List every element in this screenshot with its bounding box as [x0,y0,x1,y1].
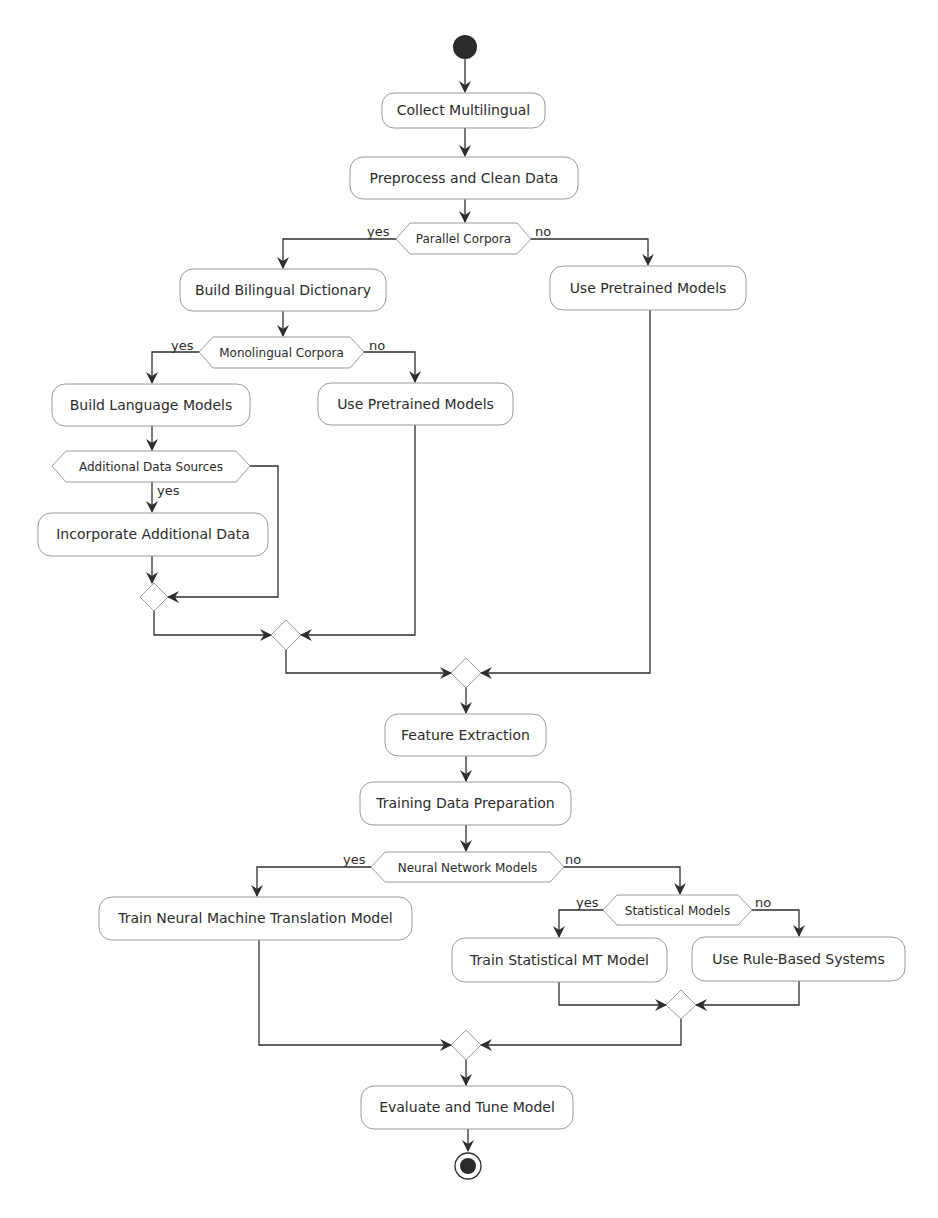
decision-statistical: Statistical Models [603,895,752,925]
start-node [453,35,477,59]
svg-text:Evaluate and Tune Model: Evaluate and Tune Model [379,1099,555,1115]
svg-text:Parallel Corpora: Parallel Corpora [416,232,511,246]
svg-text:Train Neural Machine Translati: Train Neural Machine Translation Model [117,910,393,926]
svg-text:Preprocess and Clean Data: Preprocess and Clean Data [370,170,559,186]
edge-pretrained-mid-merge2 [301,425,415,635]
edge-statistical-yes [559,910,603,937]
action-pretrained-mid: Use Pretrained Models [318,383,513,425]
action-evaluate: Evaluate and Tune Model [361,1086,573,1129]
activity-diagram: yes no yes no yes yes no yes no Collect … [0,0,938,1218]
decision-monolingual: Monolingual Corpora [199,337,364,368]
label-statistical-no: no [755,895,771,910]
edge-smt-merge4 [559,982,666,1005]
edge-merge2-merge3 [286,650,451,673]
merge-diamond-5 [451,1030,481,1060]
edge-nmt-merge5 [259,940,451,1045]
action-bilingual: Build Bilingual Dictionary [180,269,386,311]
action-train-nmt: Train Neural Machine Translation Model [99,897,412,940]
edge-parallel-no [531,239,648,265]
svg-text:Feature Extraction: Feature Extraction [401,727,530,743]
svg-text:Incorporate Additional Data: Incorporate Additional Data [56,526,250,542]
svg-text:Training Data Preparation: Training Data Preparation [375,795,554,811]
edge-monolingual-no [364,352,415,382]
label-neural-yes: yes [343,852,366,867]
edge-neural-no [564,867,680,894]
action-rule-based: Use Rule-Based Systems [692,937,905,981]
action-train-smt: Train Statistical MT Model [452,938,667,982]
label-parallel-no: no [535,224,551,239]
label-parallel-yes: yes [367,224,390,239]
label-monolingual-yes: yes [171,338,194,353]
action-feature: Feature Extraction [385,714,546,756]
decision-neural: Neural Network Models [371,852,564,882]
svg-text:Additional Data Sources: Additional Data Sources [79,460,223,474]
svg-text:Collect Multilingual: Collect Multilingual [397,102,530,118]
svg-text:Build Bilingual Dictionary: Build Bilingual Dictionary [195,282,371,298]
svg-text:Train Statistical MT Model: Train Statistical MT Model [469,952,649,968]
edge-monolingual-yes [152,352,199,383]
edge-merge1-merge2 [154,611,271,635]
svg-text:Use Pretrained Models: Use Pretrained Models [337,396,494,412]
end-node [455,1153,481,1179]
action-collect: Collect Multilingual [382,93,545,128]
action-preprocess: Preprocess and Clean Data [350,157,578,199]
label-additional-yes: yes [157,483,180,498]
merge-diamond-3 [451,658,481,688]
edge-statistical-no [752,910,799,936]
merge-diamond-4 [666,990,696,1019]
svg-text:Build Language Models: Build Language Models [70,397,232,413]
label-neural-no: no [565,852,581,867]
action-pretrained-right: Use Pretrained Models [550,266,746,310]
action-training: Training Data Preparation [360,782,571,825]
decision-parallel: Parallel Corpora [396,223,531,254]
label-statistical-yes: yes [576,895,599,910]
edge-parallel-yes [283,239,396,268]
edge-pretrained-right-merge3 [481,310,650,673]
edge-neural-yes [257,867,371,896]
svg-text:Use Rule-Based Systems: Use Rule-Based Systems [712,951,885,967]
label-monolingual-no: no [369,338,385,353]
action-incorporate: Incorporate Additional Data [38,513,268,556]
merge-diamond-1 [140,583,168,611]
svg-text:Statistical Models: Statistical Models [625,904,730,918]
svg-text:Neural Network Models: Neural Network Models [398,861,538,875]
edge-merge4-merge5 [481,1019,681,1045]
svg-text:Use Pretrained Models: Use Pretrained Models [570,280,727,296]
svg-text:Monolingual Corpora: Monolingual Corpora [219,346,344,360]
decision-additional: Additional Data Sources [52,451,250,482]
merge-diamond-2 [271,620,301,650]
edge-rule-merge4 [696,981,799,1005]
action-language-models: Build Language Models [52,384,250,426]
